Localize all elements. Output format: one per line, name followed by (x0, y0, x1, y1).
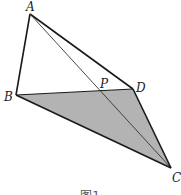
label-c: C (172, 171, 181, 185)
label-a: A (25, 0, 35, 14)
edge-ad (30, 14, 133, 89)
shaded-triangle-bdc (16, 89, 171, 168)
edge-ab (16, 14, 30, 95)
figure-caption: 图1 (80, 189, 100, 195)
geometry-figure: A B P D C 图1 (0, 0, 181, 195)
label-d: D (135, 81, 146, 95)
label-p: P (99, 77, 109, 91)
label-b: B (3, 90, 13, 104)
